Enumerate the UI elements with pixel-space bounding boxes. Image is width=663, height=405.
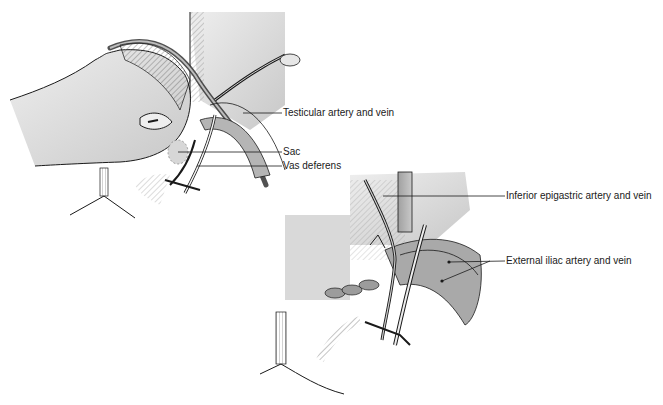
label-vas-deferens: Vas deferens [283,160,341,172]
label-external-iliac: External iliac artery and vein [506,255,632,267]
abdominal-wall [190,12,285,130]
external-iliac-vessels [385,239,481,325]
label-testicular-artery-vein: Testicular artery and vein [283,107,394,119]
label-inferior-epigastric: Inferior epigastric artery and vein [506,190,652,202]
anatomical-illustration [0,0,663,405]
label-sac: Sac [283,146,300,158]
panel-upper-left [10,12,300,218]
panel-lower-right [260,172,481,394]
iliac-band [200,117,270,178]
inferior-epigastric-trunk [398,172,412,232]
